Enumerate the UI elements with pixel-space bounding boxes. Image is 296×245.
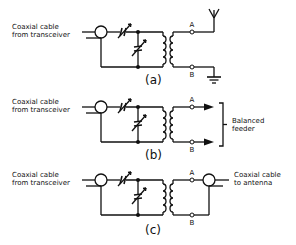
transformer-secondary-icon [170, 107, 173, 142]
terminal-b [190, 65, 194, 69]
transformer-primary-icon [163, 180, 166, 215]
terminal-b [190, 213, 194, 217]
output-label-line2: to antenna [234, 179, 272, 187]
terminal-a-label: A [190, 21, 195, 29]
variable-capacitor-shunt-icon [132, 188, 146, 204]
terminal-a [190, 105, 194, 109]
output-label-line1: Balanced [232, 117, 264, 125]
variable-capacitor-series-icon [118, 172, 131, 186]
variable-capacitor-series-icon [118, 99, 131, 113]
terminal-b-label: B [190, 146, 195, 154]
input-label-line2: from transceiver [12, 106, 70, 114]
input-label-line2: from transceiver [12, 31, 70, 39]
variable-capacitor-shunt-icon [132, 115, 146, 131]
bracket-icon [219, 103, 227, 146]
arrow-right-icon [194, 104, 214, 111]
antenna-icon [209, 9, 219, 32]
ground-icon [207, 67, 221, 83]
coax-connector-icon [82, 26, 107, 67]
transformer-secondary-icon [170, 180, 173, 215]
input-label-line2: from transceiver [12, 179, 70, 187]
transformer-primary-icon [163, 107, 166, 142]
panel-caption: (a) [145, 73, 162, 87]
input-label-line1: Coaxial cable [12, 98, 59, 106]
terminal-b [190, 140, 194, 144]
panel-caption: (b) [145, 148, 162, 162]
panel-b: Coaxial cable from transceiver [12, 96, 264, 162]
coax-connector-icon [82, 101, 107, 142]
panel-a: Coaxial cable from transceiver [12, 9, 221, 87]
output-label-line1: Coaxial cable [234, 171, 281, 179]
input-label-line1: Coaxial cable [12, 23, 59, 31]
input-label-line1: Coaxial cable [12, 171, 59, 179]
coax-connector-icon [82, 174, 107, 215]
variable-capacitor-series-icon [118, 24, 131, 38]
terminal-b-label: B [190, 71, 195, 79]
terminal-b-label: B [190, 219, 195, 227]
variable-capacitor-shunt-icon [132, 40, 146, 56]
transformer-secondary-icon [170, 32, 173, 67]
terminal-a-label: A [190, 96, 195, 104]
panel-c: Coaxial cable from transceiver [12, 169, 281, 237]
terminal-a-label: A [190, 169, 195, 177]
transformer-primary-icon [163, 32, 166, 67]
arrow-right-icon [194, 139, 214, 146]
terminal-a [190, 30, 194, 34]
coax-connector-icon [203, 174, 229, 215]
terminal-a [190, 178, 194, 182]
output-label-line2: feeder [232, 125, 255, 133]
panel-caption: (c) [145, 223, 161, 237]
circuit-diagram: Coaxial cable from transceiver [0, 0, 296, 245]
